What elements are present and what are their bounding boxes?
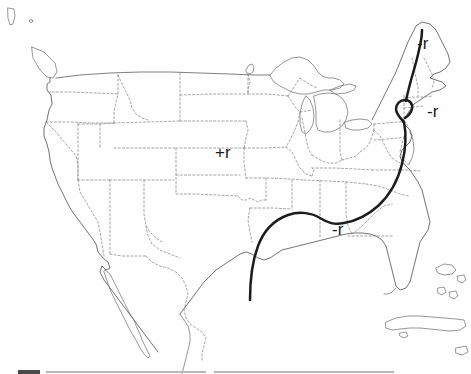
lake-huron-michigan xyxy=(314,93,348,132)
florida-keys xyxy=(384,288,396,294)
coastline-group xyxy=(8,8,468,374)
cuba xyxy=(386,316,466,331)
isla-juventud xyxy=(400,332,408,338)
chesapeake-bay xyxy=(409,132,414,164)
lake-superior xyxy=(270,57,344,94)
bahamas-islands xyxy=(436,264,466,299)
lake-erie xyxy=(345,119,372,130)
lake-of-the-woods xyxy=(246,64,254,74)
map-figure: +r -r -r -r xyxy=(0,0,471,374)
annotation-minus-r-maine: -r xyxy=(417,35,428,52)
annotation-minus-r-midatlantic: -r xyxy=(427,103,438,120)
lake-ontario xyxy=(330,84,356,94)
vancouver-island xyxy=(32,47,57,78)
scan-edge-artifact-faint xyxy=(46,371,206,373)
pacific-coast xyxy=(44,78,158,352)
annotation-plus-r-central: +r xyxy=(215,144,231,161)
lake-michigan xyxy=(300,96,314,134)
scan-edge-artifact-faint-2 xyxy=(214,371,394,373)
state-boundaries-group xyxy=(46,58,434,362)
us-outline-map xyxy=(0,0,471,374)
small-island-dot xyxy=(29,19,32,22)
mexico-gulf-coast xyxy=(180,314,190,374)
annotation-minus-r-southeast: -r xyxy=(332,221,343,238)
baja-california xyxy=(104,270,150,358)
heavy-curve-south xyxy=(250,122,405,300)
scan-edge-artifact xyxy=(18,370,40,374)
queen-charlotte-island xyxy=(8,8,15,25)
hispaniola-tip xyxy=(456,346,468,355)
canada-border-49th xyxy=(56,72,270,78)
